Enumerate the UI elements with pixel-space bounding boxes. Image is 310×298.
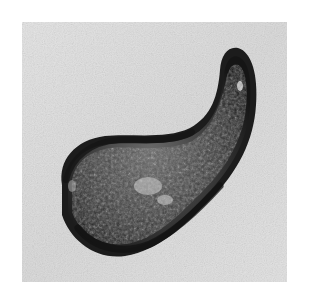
artifact-photograph (0, 0, 310, 298)
highlight (134, 177, 162, 195)
highlight (157, 195, 173, 205)
highlight (68, 180, 76, 192)
highlight (237, 81, 243, 91)
